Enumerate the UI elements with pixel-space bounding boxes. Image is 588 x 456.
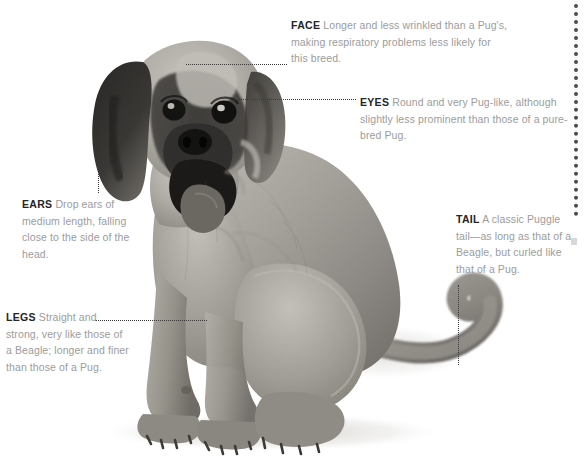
callout-legs: LEGS Straight and strong, very like thos… xyxy=(6,309,131,375)
callout-legs-term: LEGS xyxy=(6,311,36,323)
right-edge-dotted-rule xyxy=(574,4,578,216)
edge-square-mark xyxy=(571,238,577,245)
callout-ears: EARS Drop ears of medium length, falling… xyxy=(22,196,132,262)
leader-line-eyes xyxy=(233,99,356,101)
callout-ears-term: EARS xyxy=(22,198,52,210)
callout-eyes-body: Round and very Pug-like, although slight… xyxy=(360,96,568,141)
leader-line-face xyxy=(186,64,287,66)
leader-line-ears xyxy=(98,160,100,193)
callout-tail: TAIL A classic Puggle tail—as long as th… xyxy=(456,211,576,277)
callout-face: FACE Longer and less wrinkled than a Pug… xyxy=(291,17,509,67)
callout-face-term: FACE xyxy=(291,19,320,31)
callout-eyes-term: EYES xyxy=(360,96,389,108)
annotated-photo-page: FACE Longer and less wrinkled than a Pug… xyxy=(0,0,588,456)
callout-face-body: Longer and less wrinkled than a Pug's, m… xyxy=(291,19,507,64)
callout-eyes: EYES Round and very Pug-like, although s… xyxy=(360,94,572,144)
callout-tail-term: TAIL xyxy=(456,213,480,225)
leader-line-tail xyxy=(458,285,460,365)
